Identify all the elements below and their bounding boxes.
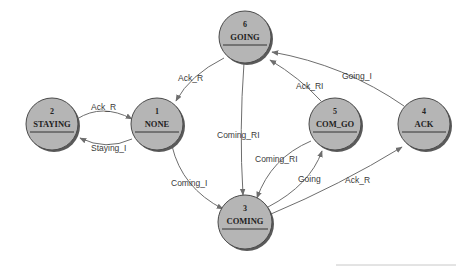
node-coming[interactable]: 3 COMING [218, 195, 274, 251]
node-number: 4 [422, 107, 426, 116]
edge-going-to-coming: Coming_RI [217, 63, 260, 195]
edge-comgo-to-coming: Coming_RI [255, 141, 311, 198]
node-none[interactable]: 1 NONE [131, 98, 185, 152]
edge-none-to-coming: Coming_I [171, 146, 223, 209]
node-name: NONE [145, 119, 170, 129]
node-name: STAYING [33, 119, 71, 129]
edge-label: Staying_I [91, 143, 126, 153]
edge-label: Coming_RI [217, 130, 260, 140]
node-number: 3 [243, 204, 247, 213]
edge-comgo-to-going: Ack_RI [270, 60, 323, 101]
edge-staying-to-none: Ack_R [77, 102, 132, 119]
edge-label: Coming_RI [255, 154, 298, 164]
edge-label: Ack_RI [296, 81, 323, 91]
node-number: 6 [243, 20, 247, 29]
node-ack[interactable]: 4 ACK [398, 98, 452, 152]
edge-none-to-staying: Staying_I [80, 138, 132, 153]
state-diagram: Ack_R Ack_R Staying_I Coming_I Coming_RI… [0, 0, 476, 268]
edge-label: Going_I [342, 71, 372, 81]
node-number: 1 [155, 107, 159, 116]
edge-label: Ack_R [178, 73, 203, 83]
edge-label: Ack_R [345, 175, 370, 185]
node-number: 5 [333, 107, 337, 116]
node-name: GOING [230, 32, 260, 42]
node-staying[interactable]: 2 STAYING [26, 98, 80, 152]
node-name: ACK [415, 119, 434, 129]
node-name: COMING [227, 216, 264, 226]
edge-going-to-none: Ack_R [176, 58, 224, 101]
edge-label: Going [298, 174, 321, 184]
node-number: 2 [50, 107, 54, 116]
edge-label: Coming_I [171, 178, 207, 188]
node-com-go[interactable]: 5 COM_GO [309, 98, 363, 152]
node-name: COM_GO [316, 119, 355, 129]
edge-label: Ack_R [91, 102, 116, 112]
node-going[interactable]: 6 GOING [219, 11, 273, 65]
